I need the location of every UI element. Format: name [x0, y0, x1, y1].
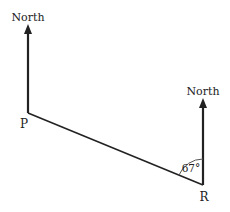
north-arrowhead-p-icon [24, 24, 32, 34]
point-label-r: R [199, 190, 209, 204]
angle-label: 67° [182, 162, 201, 174]
north-label-right: North [186, 85, 219, 98]
bearing-diagram: North North 67° P R [0, 0, 230, 212]
north-arrowhead-r-icon [199, 98, 207, 108]
point-label-p: P [20, 117, 28, 131]
north-label-left: North [11, 11, 44, 24]
line-pr [28, 113, 203, 185]
